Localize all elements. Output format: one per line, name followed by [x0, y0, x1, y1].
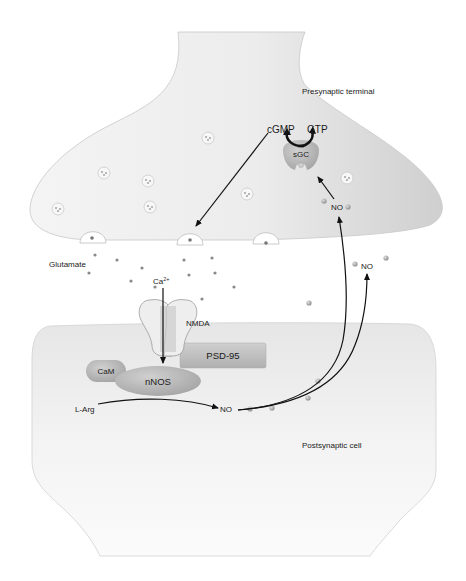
- l-arginine-label: L-Arg: [75, 405, 95, 414]
- cam-label: CaM: [98, 367, 115, 376]
- sgc-label: sGC: [293, 150, 309, 159]
- presynaptic-terminal: [30, 32, 442, 245]
- psd95-protein: PSD-95: [180, 343, 266, 368]
- nnos-label: nNOS: [145, 376, 171, 387]
- nnos-enzyme: nNOS: [115, 366, 201, 396]
- no-presynaptic-label: NO: [331, 203, 343, 212]
- no-cleft-label: NO: [361, 262, 373, 271]
- nitric-oxide-synapse-diagram: PSD-95 NMDA CaM nNOS sGC cGMP GTP Presyn…: [0, 0, 466, 581]
- psd95-label: PSD-95: [206, 350, 239, 361]
- glutamate-label: Glutamate: [49, 260, 86, 269]
- presynaptic-terminal-label: Presynaptic terminal: [302, 87, 375, 96]
- postsynaptic-cell-label: Postsynaptic cell: [302, 441, 362, 450]
- gtp-label: GTP: [307, 124, 328, 135]
- cgmp-label: cGMP: [267, 124, 295, 135]
- no-postsynaptic-label: NO: [220, 405, 232, 414]
- sgc-enzyme: sGC: [283, 140, 319, 170]
- calcium-label: Ca2+: [153, 276, 170, 286]
- nmda-label: NMDA: [186, 319, 210, 328]
